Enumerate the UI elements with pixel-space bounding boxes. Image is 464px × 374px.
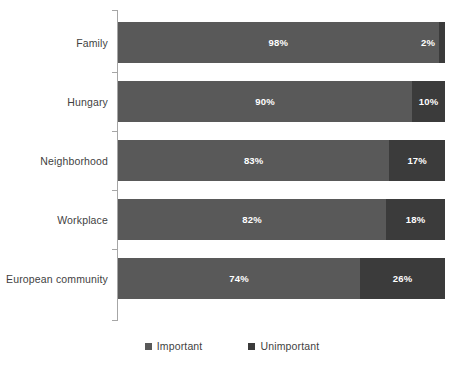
category-label: Neighborhood bbox=[0, 140, 108, 181]
bar-segment-important[interactable]: 90% bbox=[118, 81, 412, 122]
bar-track: 90% 10% bbox=[118, 81, 445, 122]
bar-value-label: 83% bbox=[244, 155, 264, 166]
category-label: Hungary bbox=[0, 81, 108, 122]
bar-value-label: 82% bbox=[242, 214, 262, 225]
bar-segment-unimportant[interactable]: 10% bbox=[412, 81, 445, 122]
bar-row: Workplace 82% 18% bbox=[0, 199, 464, 240]
legend-label: Important bbox=[157, 340, 203, 352]
category-label: European community bbox=[0, 258, 108, 299]
bar-row: European community 74% 26% bbox=[0, 258, 464, 299]
bar-segment-important[interactable]: 82% bbox=[118, 199, 386, 240]
bar-value-label-wrap-unimportant: 2% bbox=[411, 22, 445, 63]
stacked-bar-chart: Family 98% 2% Hungary 90% 10% bbox=[0, 0, 464, 374]
bar-row: Family 98% 2% bbox=[0, 22, 464, 63]
plot-area: Family 98% 2% Hungary 90% 10% bbox=[0, 0, 464, 330]
category-label: Workplace bbox=[0, 199, 108, 240]
axis-tick bbox=[112, 190, 117, 191]
bar-value-label: 2% bbox=[421, 37, 435, 48]
bar-value-label: 10% bbox=[417, 96, 441, 107]
chart-legend: Important Unimportant bbox=[0, 340, 464, 352]
bar-value-label: 98% bbox=[268, 37, 288, 48]
bar-value-label: 18% bbox=[404, 214, 428, 225]
axis-tick bbox=[112, 249, 117, 250]
bar-track: 74% 26% bbox=[118, 258, 445, 299]
bar-segment-unimportant[interactable]: 26% bbox=[360, 258, 445, 299]
square-marker-icon bbox=[248, 343, 255, 350]
axis-tick bbox=[112, 320, 117, 321]
bar-track: 98% 2% bbox=[118, 22, 445, 63]
bar-row: Hungary 90% 10% bbox=[0, 81, 464, 122]
legend-item-important[interactable]: Important bbox=[145, 340, 203, 352]
axis-tick bbox=[112, 10, 117, 11]
bar-value-label: 90% bbox=[255, 96, 275, 107]
bar-value-label: 26% bbox=[391, 273, 415, 284]
bar-segment-unimportant[interactable]: 18% bbox=[386, 199, 445, 240]
bar-value-label: 74% bbox=[229, 273, 249, 284]
bar-segment-important[interactable]: 74% bbox=[118, 258, 360, 299]
bar-row: Neighborhood 83% 17% bbox=[0, 140, 464, 181]
bar-track: 82% 18% bbox=[118, 199, 445, 240]
square-marker-icon bbox=[145, 343, 152, 350]
axis-tick bbox=[112, 131, 117, 132]
axis-tick bbox=[112, 72, 117, 73]
bar-value-label: 17% bbox=[405, 155, 429, 166]
bar-segment-important[interactable]: 98% bbox=[118, 22, 439, 63]
legend-label: Unimportant bbox=[260, 340, 319, 352]
legend-item-unimportant[interactable]: Unimportant bbox=[248, 340, 319, 352]
bar-track: 83% 17% bbox=[118, 140, 445, 181]
bar-segment-important[interactable]: 83% bbox=[118, 140, 389, 181]
category-label: Family bbox=[0, 22, 108, 63]
bar-segment-unimportant[interactable]: 17% bbox=[389, 140, 445, 181]
